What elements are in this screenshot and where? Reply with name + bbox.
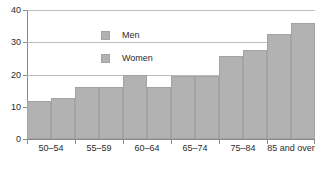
bar-group bbox=[171, 10, 219, 139]
y-axis-tick-label: 20 bbox=[11, 70, 21, 79]
chart-legend: Men Women bbox=[101, 30, 153, 76]
bar-chart: 010203040 Men Women 50–5455–5960–6465–74… bbox=[0, 0, 322, 172]
x-axis-tick-label: 55–59 bbox=[75, 143, 123, 154]
bar-group bbox=[267, 10, 315, 139]
x-axis-tick-label: 75–84 bbox=[219, 143, 267, 154]
x-axis-tick-label: 65–74 bbox=[171, 143, 219, 154]
bar bbox=[99, 87, 123, 139]
x-axis-labels: 50–5455–5960–6465–7475–8485 and over bbox=[27, 143, 315, 171]
y-axis-tick-label: 40 bbox=[11, 6, 21, 15]
legend-swatch-icon bbox=[101, 31, 110, 40]
bar-group bbox=[219, 10, 267, 139]
y-axis-tick-label: 10 bbox=[11, 102, 21, 111]
legend-swatch-icon bbox=[101, 54, 110, 63]
legend-label: Women bbox=[122, 54, 153, 63]
bar bbox=[291, 23, 315, 139]
bars-layer bbox=[27, 10, 315, 140]
plot-area: 010203040 Men Women bbox=[27, 10, 315, 140]
x-axis-tick-label: 60–64 bbox=[123, 143, 171, 154]
y-axis-tick-label: 0 bbox=[16, 135, 21, 144]
bar bbox=[75, 87, 99, 139]
y-axis-tick-label: 30 bbox=[11, 38, 21, 47]
legend-label: Men bbox=[122, 31, 140, 40]
bar bbox=[243, 50, 267, 139]
legend-item-men: Men bbox=[101, 30, 153, 40]
bar bbox=[51, 98, 75, 139]
legend-item-women: Women bbox=[101, 53, 153, 63]
x-axis-tick-label: 85 and over bbox=[267, 143, 315, 154]
x-axis-tick-label: 50–54 bbox=[27, 143, 75, 154]
bar-group bbox=[27, 10, 75, 139]
bar bbox=[219, 56, 243, 139]
bar bbox=[123, 75, 147, 140]
bar bbox=[171, 76, 195, 139]
bar bbox=[267, 34, 291, 139]
bar bbox=[27, 101, 51, 139]
bar bbox=[195, 76, 219, 139]
bar bbox=[147, 87, 171, 139]
